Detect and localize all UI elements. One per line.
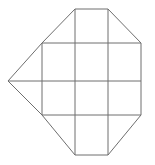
- geometric-figure: Geometric net figure Octagonal outline w…: [0, 0, 155, 165]
- interior-grid-group: [8, 9, 141, 155]
- figure-canvas: Geometric net figure Octagonal outline w…: [0, 0, 155, 165]
